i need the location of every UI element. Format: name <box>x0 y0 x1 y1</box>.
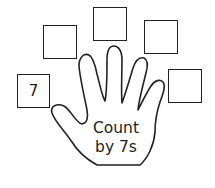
box-value: 7 <box>29 82 39 100</box>
hand-label-line2: by 7s <box>88 138 144 157</box>
answer-box-2[interactable] <box>43 25 77 59</box>
hand-label-line1: Count <box>88 119 144 138</box>
answer-box-3[interactable] <box>93 7 127 41</box>
hand-label: Count by 7s <box>88 119 144 157</box>
answer-box-1[interactable]: 7 <box>17 74 50 108</box>
answer-box-4[interactable] <box>144 20 178 54</box>
answer-box-5[interactable] <box>168 69 202 103</box>
